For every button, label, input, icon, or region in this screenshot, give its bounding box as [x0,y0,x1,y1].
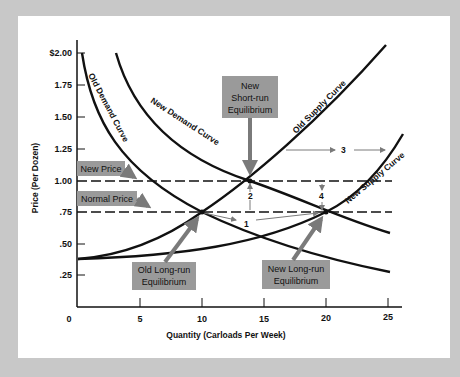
step-4-label: 4 [319,191,324,201]
y-tick-1.75: 1.75 [54,80,72,90]
step-2-label: 2 [248,191,253,201]
new-long-run-label-line2: Equilibrium [274,276,319,286]
old-long-run-label-line1: Old Long-run [138,265,191,275]
normal-price-label: Normal Price [81,194,133,204]
short-run-point [248,179,253,184]
new-long-run-label-line1: New Long-run [268,264,325,274]
y-tick-1.25: 1.25 [54,144,72,154]
y-tick-0.75: .75 [59,207,72,217]
step-3-label: 3 [341,145,346,155]
old-supply-label: Old Supply Curve [290,78,348,136]
x-tick-0: 0 [66,314,71,324]
old-long-run-point [200,210,205,215]
y-tick-1.50: 1.50 [54,112,72,122]
new-long-run-point [324,210,329,215]
y-tick-0.50: .50 [59,239,72,249]
supply-demand-chart: $2.00 1.75 1.50 1.25 1.00 .75 .50 .25 0 … [0,0,460,377]
y-axis-label: Price (Per Dozen) [30,143,40,214]
x-tick-20: 20 [321,313,331,323]
y-tick-2.00: $2.00 [49,48,72,58]
new-price-label: New Price [80,164,121,174]
step-1-label: 1 [244,219,249,229]
x-tick-5: 5 [137,314,142,324]
short-run-label-line3: Equilibrium [228,105,273,115]
short-run-label-line1: New [241,81,260,91]
short-run-label-line2: Short-run [231,93,269,103]
x-tick-15: 15 [259,314,269,324]
x-tick-25: 25 [383,312,393,322]
y-tick-0.25: .25 [59,270,72,280]
x-axis-label: Quantity (Carloads Per Week) [166,330,286,340]
new-demand-label: New Demand Curve [149,95,222,147]
old-long-run-label-line2: Equilibrium [142,277,187,287]
x-tick-10: 10 [197,314,207,324]
new-supply-label: New Supply Curve [343,150,407,206]
y-tick-1.00: 1.00 [54,176,72,186]
